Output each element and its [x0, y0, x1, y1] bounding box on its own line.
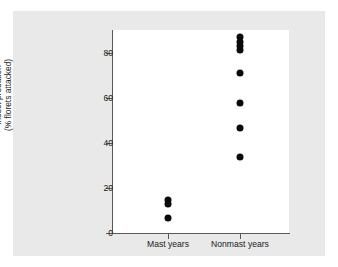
y-tick-label: 0: [91, 229, 113, 238]
data-point: [237, 99, 244, 106]
y-axis-title: Insect predation (% florets attacked): [0, 59, 14, 131]
data-point: [165, 215, 172, 222]
y-tick-label: 20: [91, 184, 113, 193]
data-point: [237, 46, 244, 53]
data-point: [237, 153, 244, 160]
data-point: [237, 125, 244, 132]
data-point: [165, 200, 172, 207]
x-axis-line: [112, 233, 290, 234]
y-tick-label: 80: [91, 49, 113, 58]
x-tick-label-nonmast-years: Nonmast years: [211, 240, 269, 249]
plot-area: [113, 30, 289, 233]
figure-root: Insect predation (% florets attacked) 02…: [0, 0, 338, 267]
y-tick-label: 40: [91, 139, 113, 148]
y-tick-label: 60: [91, 94, 113, 103]
data-point: [237, 70, 244, 77]
y-axis-title-line-2: (% florets attacked): [4, 59, 14, 131]
x-tick-label-mast-years: Mast years: [147, 240, 189, 249]
y-axis-line: [112, 30, 113, 234]
